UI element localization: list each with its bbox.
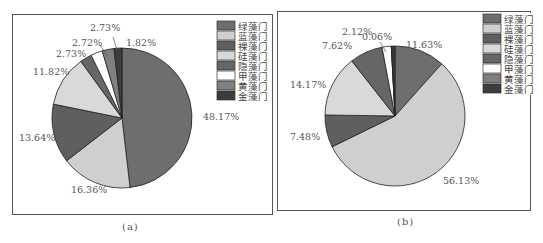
pie-slice-a-0 <box>122 48 192 188</box>
data-label: 13.64% <box>19 132 55 143</box>
caption-b: (b) <box>397 216 414 227</box>
data-label: 16.36% <box>71 184 107 195</box>
legend-swatch <box>217 31 235 40</box>
legend-swatch <box>483 74 501 83</box>
legend-swatch <box>483 84 501 93</box>
legend-swatch <box>483 64 501 73</box>
legend-label: 金藻门 <box>504 84 534 95</box>
legend: 绿藻门蓝藻门裸藻门硅藻门隐藻门甲藻门黄藻门金藻门 <box>481 13 537 95</box>
pie-chart-a-frame: 48.17%16.36%13.64%11.82%2.73%2.72%2.73%1… <box>12 14 273 215</box>
data-label: 0.06% <box>362 31 392 42</box>
pie-chart-b: 11.63%56.13%7.48%14.17%7.62%2.12%0.06%绿藻… <box>278 12 530 210</box>
legend-swatch <box>217 61 235 70</box>
data-label: 48.17% <box>203 111 239 122</box>
legend-swatch <box>217 81 235 90</box>
legend-swatch <box>217 71 235 80</box>
legend-swatch <box>483 14 501 23</box>
data-label: 2.73% <box>56 48 86 59</box>
legend-swatch <box>217 51 235 60</box>
data-label: 7.48% <box>290 131 320 142</box>
data-label: 56.13% <box>443 175 479 186</box>
data-label: 14.17% <box>290 79 326 90</box>
data-label: 7.62% <box>322 40 352 51</box>
caption-a: (a) <box>122 221 139 232</box>
legend-swatch <box>483 34 501 43</box>
legend-swatch <box>217 21 235 30</box>
data-label: 11.63% <box>406 39 442 50</box>
data-label: 1.82% <box>126 37 156 48</box>
legend-swatch <box>217 91 235 100</box>
pie-chart-b-frame: 11.63%56.13%7.48%14.17%7.62%2.12%0.06%绿藻… <box>277 11 531 211</box>
legend-swatch <box>483 44 501 53</box>
legend-label: 金藻门 <box>238 91 268 102</box>
legend-swatch <box>217 41 235 50</box>
legend-swatch <box>483 54 501 63</box>
legend: 绿藻门蓝藻门裸藻门硅藻门隐藻门甲藻门黄藻门金藻门 <box>215 20 271 102</box>
data-label: 2.73% <box>90 22 120 33</box>
legend-swatch <box>483 24 501 33</box>
data-label: 2.72% <box>72 37 102 48</box>
pie-chart-a: 48.17%16.36%13.64%11.82%2.73%2.72%2.73%1… <box>13 15 272 214</box>
data-label: 11.82% <box>33 66 69 77</box>
